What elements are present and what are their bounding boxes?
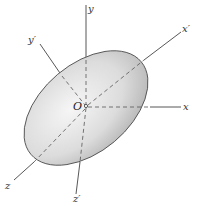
x-axis-label: x (183, 101, 189, 112)
z-axis-label: z (4, 180, 11, 191)
z-prime-axis-line (76, 162, 80, 194)
y-axis-label: y (87, 3, 94, 14)
origin-label: O (73, 100, 82, 113)
x-prime-axis-label: x′ (182, 23, 191, 34)
ellipsoid-diagram: O y y′ x′ x z z′ (0, 0, 197, 206)
z-axis-line (14, 162, 34, 180)
x-prime-axis-line (144, 32, 181, 60)
z-prime-axis-label: z′ (72, 193, 81, 204)
y-prime-axis-line (40, 44, 62, 76)
y-prime-axis-label: y′ (27, 34, 37, 45)
origin-point (84, 104, 87, 107)
